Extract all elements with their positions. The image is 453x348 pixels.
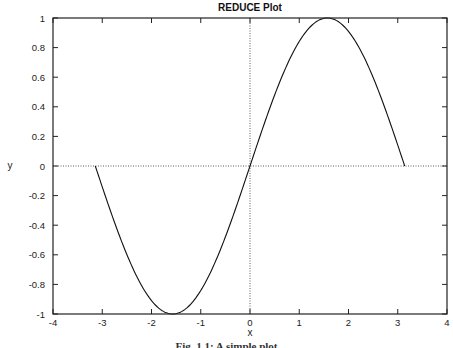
x-tick-label: 4 — [444, 317, 449, 328]
x-tick-label: 2 — [346, 317, 351, 328]
x-tick-label: -2 — [147, 317, 155, 328]
y-tick-label: 0.4 — [32, 101, 45, 112]
x-tick-label: -4 — [49, 317, 57, 328]
x-tick-label: -1 — [197, 317, 205, 328]
y-tick-labels: -1-0.8-0.6-0.4-0.200.20.40.60.81 — [29, 13, 45, 320]
y-tick-label: -0.8 — [29, 279, 45, 290]
figure-caption: Fig. 1.1: A simple plot — [0, 339, 453, 348]
y-tick-label: 0 — [40, 161, 45, 172]
y-tick-label: 0.8 — [32, 42, 45, 53]
x-tick-label: -3 — [98, 317, 106, 328]
x-tick-label: 1 — [297, 317, 302, 328]
y-tick-label: -1 — [37, 309, 45, 320]
x-tick-label: 3 — [395, 317, 400, 328]
y-tick-label: -0.2 — [29, 190, 45, 201]
y-tick-label: 0.6 — [32, 72, 45, 83]
x-axis-label: x — [248, 327, 253, 338]
y-tick-label: -0.6 — [29, 249, 45, 260]
y-tick-label: -0.4 — [29, 220, 45, 231]
chart-title: REDUCE Plot — [218, 2, 283, 13]
y-tick-label: 0.2 — [32, 131, 45, 142]
y-axis-label: y — [8, 160, 13, 171]
y-tick-label: 1 — [40, 13, 45, 24]
chart-plot: REDUCE Plot -4-3-2-101234 -1-0.8-0.6-0.4… — [0, 0, 453, 348]
